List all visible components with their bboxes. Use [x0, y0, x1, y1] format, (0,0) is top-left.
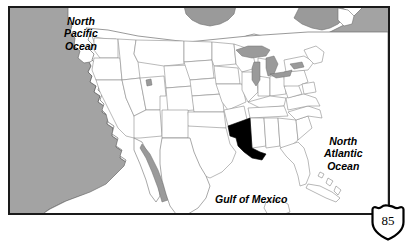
state-alabama [264, 118, 280, 148]
state-mississippi [250, 118, 266, 148]
state-washington [94, 38, 118, 58]
shield-number-label: 85 [382, 213, 395, 228]
state-north-dakota [184, 41, 212, 62]
state-ohio [270, 76, 286, 96]
state-colorado [166, 86, 194, 112]
interstate-shield-icon: 85 [366, 199, 411, 244]
interstate-shield-marker: 85 [366, 199, 411, 244]
state-montana [134, 40, 184, 66]
state-kansas [192, 94, 224, 112]
map-page: North Pacific Ocean North Atlantic Ocean… [0, 0, 411, 248]
state-iowa [214, 66, 240, 84]
map-figure: North Pacific Ocean North Atlantic Ocean… [8, 6, 390, 215]
state-new-mexico [162, 110, 190, 138]
state-oregon [92, 58, 122, 80]
state-maryland-delaware [302, 82, 316, 94]
state-tennessee [248, 106, 288, 118]
state-minnesota [212, 42, 236, 66]
map-graphic [8, 6, 390, 215]
great-salt-lake [146, 79, 152, 86]
state-arizona [134, 110, 162, 138]
